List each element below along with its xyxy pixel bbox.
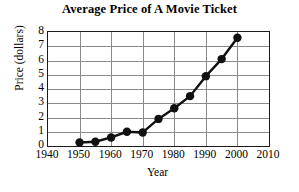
data-point-marker xyxy=(123,128,131,136)
series-polyline xyxy=(80,38,238,143)
chart-page: Average Price of A Movie Ticket Price (d… xyxy=(0,0,299,192)
y-tick-label: 8 xyxy=(30,25,44,37)
data-point-marker xyxy=(75,138,83,146)
x-tick-label: 2000 xyxy=(219,148,253,160)
y-tick-label: 3 xyxy=(30,96,44,108)
y-tick-label: 6 xyxy=(30,54,44,66)
x-tick-label: 1950 xyxy=(62,148,96,160)
y-tick-label: 5 xyxy=(30,68,44,80)
x-axis-tick-labels: 19401950196019701980199020002010 xyxy=(0,148,299,164)
x-axis-label: Year xyxy=(47,166,268,178)
data-point-marker xyxy=(170,104,178,112)
data-point-marker xyxy=(91,138,99,146)
x-tick-label: 1940 xyxy=(30,148,64,160)
data-point-marker xyxy=(154,115,162,123)
data-point-marker xyxy=(233,34,241,42)
y-tick-label: 4 xyxy=(30,82,44,94)
y-axis-label: Price (dollars) xyxy=(13,3,25,113)
data-point-marker xyxy=(202,72,210,80)
plot-area xyxy=(47,31,270,147)
x-tick-label: 2010 xyxy=(251,148,285,160)
chart-title: Average Price of A Movie Ticket xyxy=(0,2,299,17)
y-tick-label: 2 xyxy=(30,111,44,123)
x-tick-label: 1990 xyxy=(188,148,222,160)
data-point-marker xyxy=(217,55,225,63)
y-tick-label: 7 xyxy=(30,39,44,51)
data-point-marker xyxy=(107,133,115,141)
y-tick-label: 1 xyxy=(30,125,44,137)
data-point-marker xyxy=(186,92,194,100)
x-tick-label: 1980 xyxy=(156,148,190,160)
data-series-line xyxy=(48,32,269,146)
x-tick-label: 1970 xyxy=(125,148,159,160)
y-axis-tick-labels: 012345678 xyxy=(27,31,44,145)
x-tick-label: 1960 xyxy=(93,148,127,160)
data-point-marker xyxy=(139,128,147,136)
